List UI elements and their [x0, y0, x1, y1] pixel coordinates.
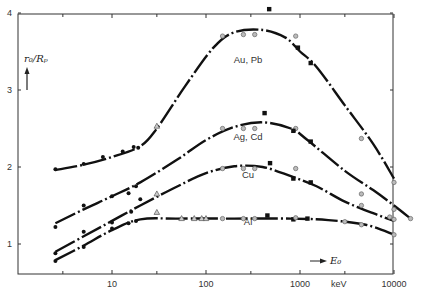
axis-ticks: 101001000100001234: [7, 8, 407, 289]
y-tick-label: 3: [7, 85, 12, 95]
chart: 101001000100001234 Au, PbAg, CdCuAl r₀/R…: [0, 0, 422, 293]
curve-aupb: [55, 29, 394, 178]
y-tick-label: 4: [7, 8, 12, 18]
y-tick-label: 2: [7, 162, 12, 172]
curve-label: Au, Pb: [234, 54, 263, 65]
x-tick-label: 100: [198, 279, 213, 289]
x-tick-label: 10000: [381, 279, 406, 289]
y-axis-label: r₀/Rₚ: [24, 53, 48, 64]
x-tick-label: 10: [107, 279, 117, 289]
x-axis-label: E₀: [329, 255, 341, 266]
y-tick-label: 1: [7, 239, 12, 249]
curve-label: Al: [244, 216, 252, 227]
curve-label: Ag, Cd: [234, 131, 263, 142]
plot-frame: [18, 14, 393, 274]
curve-cu: [55, 166, 394, 252]
curve-label: Cu: [242, 169, 254, 180]
curve-al: [55, 218, 394, 260]
x-tick-label: 1000: [290, 279, 310, 289]
y-axis-arrow-icon: [25, 67, 30, 90]
x-axis-unit: keV: [331, 279, 347, 289]
curve-labels: Au, PbAg, CdCuAl: [234, 54, 263, 227]
x-axis-arrow-icon: [310, 259, 327, 264]
